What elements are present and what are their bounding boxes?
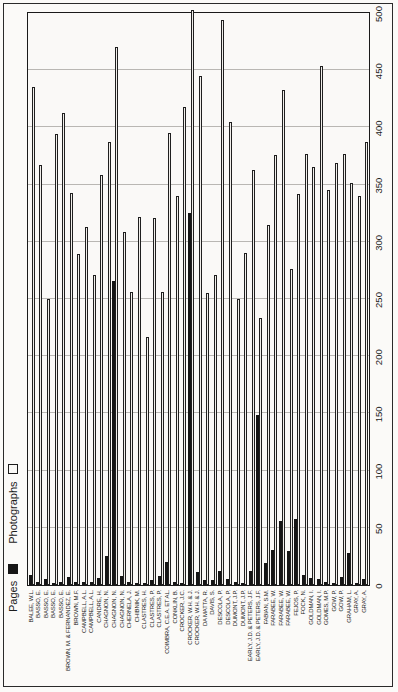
scanned-page: Pages Photographs BALEE, W.L.BASSO, E.BA…	[0, 0, 398, 692]
category-label: FARABEE, W.	[285, 590, 292, 688]
category-label: CHIBNIK, M.	[134, 590, 141, 688]
bar-photographs	[335, 163, 338, 585]
category-label: GOLDMAN, I.	[308, 590, 315, 688]
category-label: DESCOLA, P.	[217, 590, 224, 688]
bar-photographs	[290, 269, 293, 585]
category-label: CLASTRES, P.	[156, 590, 163, 688]
bar-photographs	[312, 167, 315, 585]
bar-photographs	[146, 337, 149, 585]
bar-photographs	[62, 113, 65, 585]
bar-photographs	[39, 165, 42, 585]
value-tick-label-500: 500	[373, 0, 384, 31]
bar-photographs	[168, 133, 171, 585]
category-label: EARLY, J.D. & PETERS, J.F.	[247, 590, 254, 688]
rotated-chart-container: Pages Photographs BALEE, W.L.BASSO, E.BA…	[4, 4, 394, 688]
bar-photographs	[259, 318, 262, 585]
category-label: FEJOS, P.	[293, 590, 300, 688]
category-label: COIMBRA, C.E.A. ET AL.	[164, 590, 171, 688]
bar-photographs	[108, 142, 111, 585]
value-tick-label-300: 300	[373, 226, 384, 260]
category-label: CHAGNON, N.	[111, 590, 118, 688]
bar-photographs	[297, 194, 300, 585]
category-label: GOLDMAN, I.	[316, 590, 323, 688]
category-label: GRAY, A.	[361, 590, 368, 688]
legend-label-pages: Pages	[7, 581, 19, 612]
category-label: CAMPBELL, A.L.	[88, 590, 95, 688]
bar-photographs	[85, 227, 88, 585]
category-label: GOW, P.	[331, 590, 338, 688]
bar-photographs	[206, 293, 209, 585]
category-label: FOCK, N.	[300, 590, 307, 688]
value-tick-label-0: 0	[373, 569, 384, 603]
bar-photographs	[229, 122, 232, 585]
value-tick-label-250: 250	[373, 283, 384, 317]
bar-photographs	[70, 193, 73, 585]
bar-photographs	[214, 275, 217, 585]
category-label: CROCKER, J.C.	[179, 590, 186, 688]
bar-photographs	[199, 76, 202, 585]
bar-photographs	[365, 142, 368, 585]
bar-photographs	[191, 10, 194, 585]
category-label: CANDRE, H.	[96, 590, 103, 688]
value-tick-label-150: 150	[373, 397, 384, 431]
bar-photographs	[350, 183, 353, 585]
category-label: GRAHAM, L.	[346, 590, 353, 688]
value-tick-label-350: 350	[373, 169, 384, 203]
bar-photographs	[100, 175, 103, 585]
legend-item-photographs: Photographs	[7, 464, 19, 543]
value-tick-label-400: 400	[373, 111, 384, 145]
bar-photographs	[115, 47, 118, 585]
category-label: BROWN, M.F.	[73, 590, 80, 688]
category-label: CHERNELA, J.	[126, 590, 133, 688]
category-label: EARLY, J.D. & PETERS, J.F.	[255, 590, 262, 688]
category-label: BROWN, M. & FERNANDEZ, E.	[65, 590, 72, 688]
category-label: CLASTRES, H.	[141, 590, 148, 688]
category-label: DUMONT, J.P.	[232, 590, 239, 688]
legend-label-photographs: Photographs	[7, 481, 19, 543]
value-tick-label-100: 100	[373, 455, 384, 489]
bar-photographs	[282, 90, 285, 585]
chart-legend: Pages Photographs	[7, 464, 19, 612]
category-label: CHAGNON, N.	[119, 590, 126, 688]
value-tick-label-450: 450	[373, 54, 384, 88]
category-label: DAVIS, S.	[209, 590, 216, 688]
bar-photographs	[221, 20, 224, 585]
category-label: FABIAN, S.M.	[263, 590, 270, 688]
gridline-450	[28, 69, 369, 70]
bar-photographs	[47, 299, 50, 585]
category-label: CROCKER, W.H. & J.	[194, 590, 201, 688]
bar-photographs	[77, 254, 80, 585]
category-label: DUMONT, J.P.	[240, 590, 247, 688]
category-label: GOMES, M.P.	[323, 590, 330, 688]
plot-area	[27, 12, 370, 586]
bar-photographs	[343, 154, 346, 585]
bar-photographs	[153, 218, 156, 585]
bar-photographs	[161, 292, 164, 585]
bar-photographs	[274, 155, 277, 585]
category-label: CROCKER, W.H. & J.	[187, 590, 194, 688]
category-label: CONKLIN, B.	[172, 590, 179, 688]
bar-photographs	[244, 253, 247, 585]
category-label: BASSO, E.	[50, 590, 57, 688]
value-tick-label-50: 50	[373, 512, 384, 546]
category-label: BASSO, E.	[35, 590, 42, 688]
bar-photographs	[183, 107, 186, 585]
legend-swatch-photographs	[8, 464, 18, 474]
category-label: GOW, P.	[338, 590, 345, 688]
category-label: CAMPBELL, A.L.	[81, 590, 88, 688]
bar-photographs	[305, 154, 308, 585]
bar-photographs	[123, 232, 126, 585]
category-label: FARABEE, W.	[270, 590, 277, 688]
legend-swatch-pages	[8, 564, 18, 574]
bar-photographs	[32, 87, 35, 585]
bar-photographs	[138, 217, 141, 585]
legend-item-pages: Pages	[7, 564, 19, 612]
bar-photographs	[237, 299, 240, 585]
category-label: FARABEE, W.	[278, 590, 285, 688]
bar-photographs	[176, 196, 179, 585]
bar-photographs	[358, 196, 361, 585]
category-label: DESCOLA, P.	[225, 590, 232, 688]
category-label: BASSO, E.	[58, 590, 65, 688]
bar-photographs	[267, 225, 270, 585]
category-label: CLASTRES, P.	[149, 590, 156, 688]
